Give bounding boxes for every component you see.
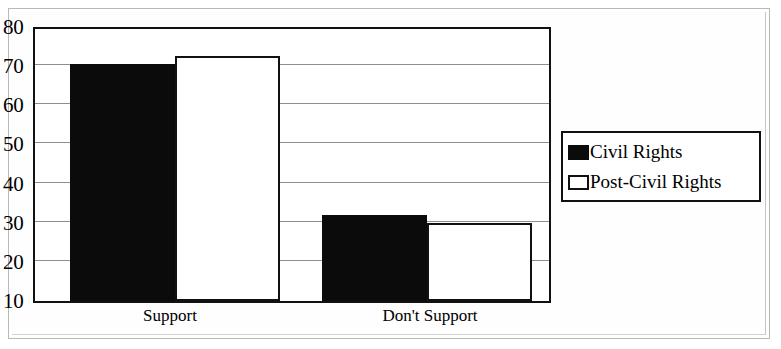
chart-figure: 80 70 60 50 40 30 20 10 Support Don't Su… [0,0,781,349]
bar-dont-support-post-civil-rights [427,223,532,301]
y-tick-label-40: 40 [3,174,33,195]
y-tick-label-20: 20 [3,252,33,273]
bar-support-post-civil-rights [175,56,280,301]
white-square-icon [568,175,589,190]
x-tick-label-support: Support [100,306,240,326]
bar-dont-support-civil-rights [322,215,427,301]
y-tick-label-10: 10 [3,291,33,312]
y-tick-label-80: 80 [3,17,33,38]
legend-item-post-civil-rights: Post-Civil Rights [568,167,755,197]
plot-inner [35,29,549,301]
legend-item-civil-rights: Civil Rights [568,137,755,167]
bar-support-civil-rights [70,64,175,301]
legend-label-civil-rights: Civil Rights [590,142,682,162]
y-tick-label-70: 70 [3,56,33,77]
legend-label-post-civil-rights: Post-Civil Rights [590,172,721,192]
black-square-icon [568,145,589,160]
x-tick-label-dont-support: Don't Support [350,306,510,326]
chart-legend: Civil Rights Post-Civil Rights [561,131,761,202]
plot-area [33,27,551,303]
y-axis-tick-labels: 80 70 60 50 40 30 20 10 [2,0,33,349]
y-tick-label-30: 30 [3,213,33,234]
y-tick-label-50: 50 [3,134,33,155]
y-tick-label-60: 60 [3,95,33,116]
